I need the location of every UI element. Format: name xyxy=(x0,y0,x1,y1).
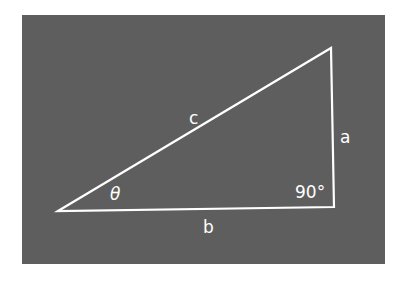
right-triangle xyxy=(58,48,334,211)
label-right-angle: 90° xyxy=(295,182,325,202)
label-angle-theta: θ xyxy=(110,184,121,204)
label-side-a: a xyxy=(340,127,350,147)
label-hypotenuse: c xyxy=(189,108,198,128)
triangle-diagram: c a b θ 90° xyxy=(0,0,397,287)
label-side-b: b xyxy=(203,217,214,237)
